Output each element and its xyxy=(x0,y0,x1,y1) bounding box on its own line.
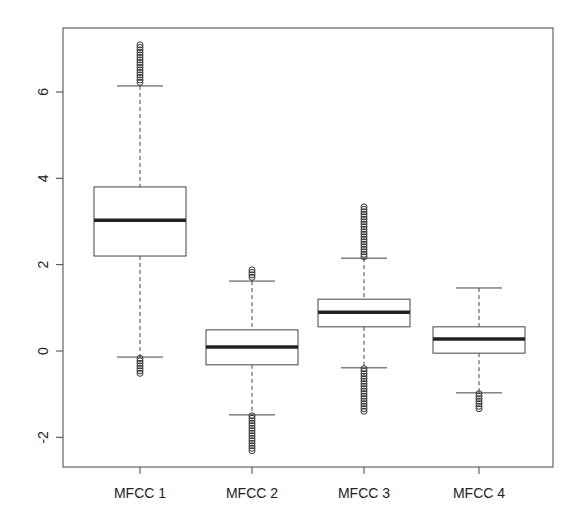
x-axis: MFCC 1MFCC 2MFCC 3MFCC 4 xyxy=(114,467,505,501)
y-tick-label: 0 xyxy=(35,347,51,355)
box-1 xyxy=(94,42,186,376)
box-2 xyxy=(206,267,298,454)
box-4 xyxy=(433,288,525,412)
x-tick-label: MFCC 4 xyxy=(453,485,505,501)
y-tick-label: 2 xyxy=(35,261,51,269)
y-tick-label: -2 xyxy=(35,431,51,444)
y-axis: -20246 xyxy=(35,88,63,444)
x-tick-label: MFCC 2 xyxy=(226,485,278,501)
x-tick-label: MFCC 3 xyxy=(338,485,390,501)
boxplot-chart: -20246 MFCC 1MFCC 2MFCC 3MFCC 4 xyxy=(0,0,575,529)
box-3 xyxy=(318,204,410,414)
x-tick-label: MFCC 1 xyxy=(114,485,166,501)
boxes xyxy=(94,42,525,454)
y-tick-label: 6 xyxy=(35,88,51,96)
y-tick-label: 4 xyxy=(35,174,51,182)
